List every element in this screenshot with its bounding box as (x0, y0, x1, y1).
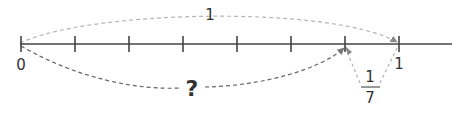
fraction-one-seventh: 1 7 (361, 68, 380, 107)
label-top-arc: 1 (205, 6, 215, 24)
fraction-denominator: 7 (365, 89, 375, 107)
fraction-numerator: 1 (365, 68, 375, 86)
label-one-axis: 1 (394, 55, 404, 73)
label-question-mark: ? (186, 76, 199, 101)
label-zero: 0 (16, 56, 26, 74)
bottom-arc-unknown (21, 46, 344, 88)
number-line-diagram: 0 1 1 ? 1 7 (0, 0, 459, 113)
arrowhead-left (345, 46, 352, 55)
